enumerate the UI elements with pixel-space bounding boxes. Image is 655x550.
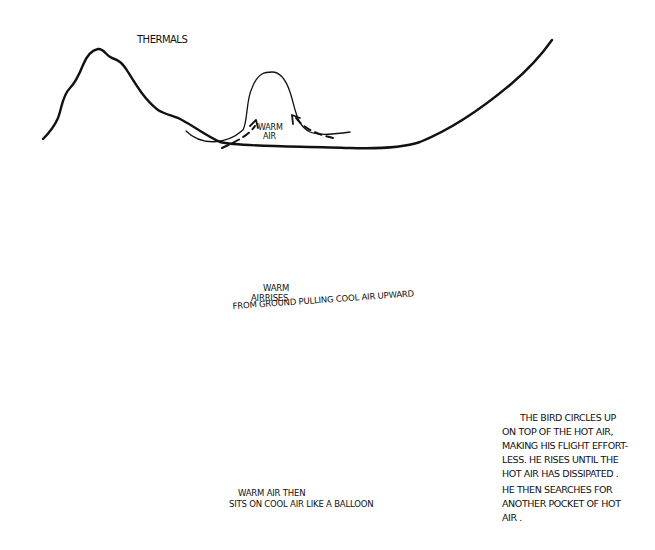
dashed-circulation-arrow-1b [296, 118, 333, 138]
panel-1-drawing [43, 40, 552, 148]
diagram-title: THERMALS [137, 34, 187, 45]
mountain-valley-line-1 [43, 40, 552, 148]
